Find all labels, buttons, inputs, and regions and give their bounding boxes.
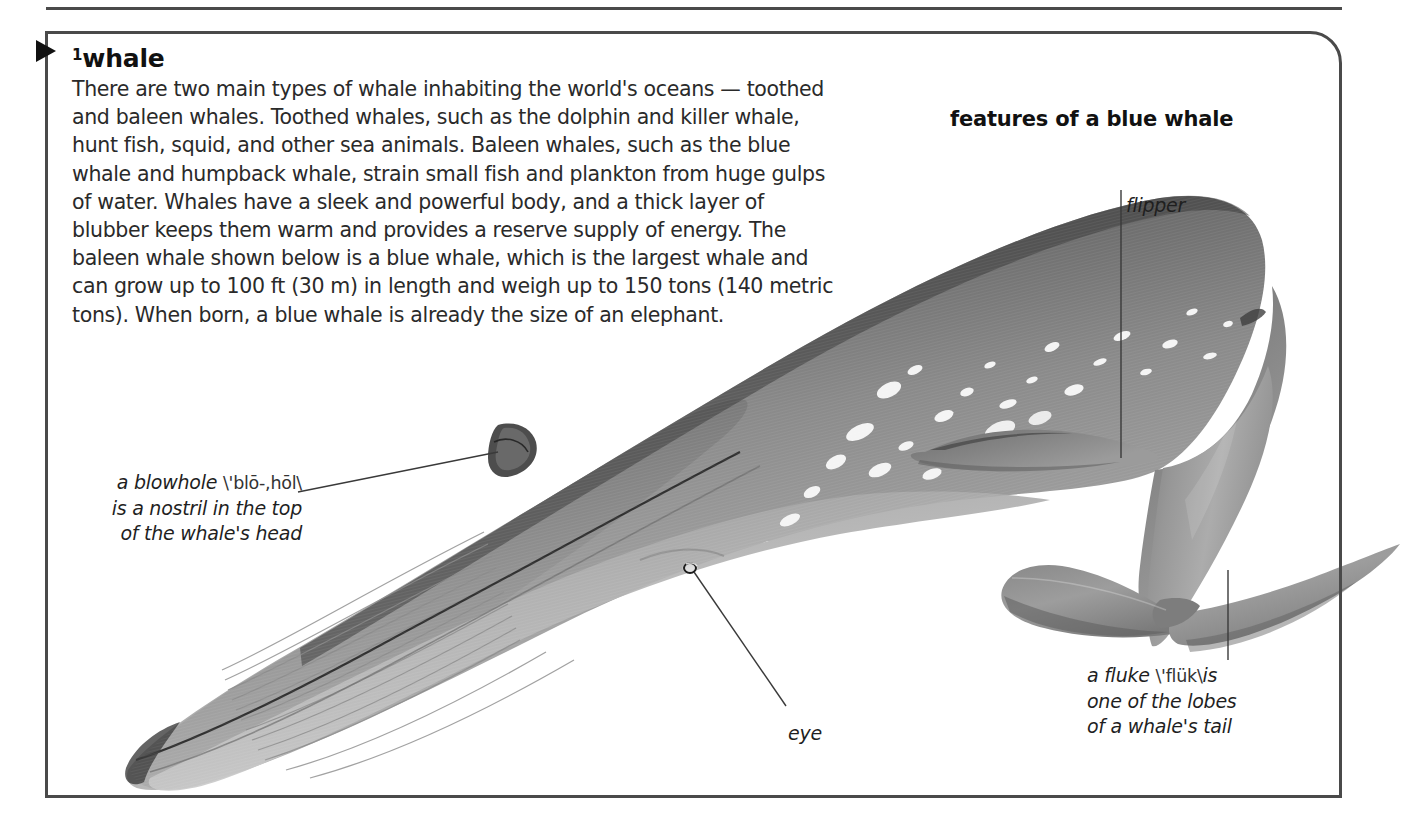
entry-arrow-marker — [36, 40, 56, 62]
callout-fluke: a fluke \'flük\is one of the lobes of a … — [1087, 663, 1247, 739]
entry-text-block: 1whale There are two main types of whale… — [72, 40, 842, 329]
callout-flipper: flipper — [1126, 168, 1185, 218]
headword-superscript: 1 — [72, 46, 82, 64]
callout-blowhole-pronunciation: \'blō-,hōl\ — [223, 473, 302, 493]
callout-blowhole-term: a blowhole — [117, 471, 217, 493]
page-root: 1whale There are two main types of whale… — [0, 0, 1407, 838]
page-title: 1whale — [72, 40, 842, 74]
callout-eye-label: eye — [788, 722, 822, 744]
blowhole-feature — [488, 424, 537, 478]
callout-blowhole: a blowhole \'blō-,hōl\ is a nostril in t… — [90, 470, 302, 546]
callout-fluke-pronunciation: \'flük\ — [1155, 666, 1202, 686]
callout-flipper-label: flipper — [1126, 194, 1185, 216]
callout-fluke-term: a fluke — [1087, 664, 1150, 686]
callout-eye: eye — [788, 696, 822, 746]
headword-text: whale — [82, 44, 164, 73]
definition-paragraph: There are two main types of whale inhabi… — [72, 75, 842, 329]
callout-blowhole-rest: is a nostril in the top of the whale's h… — [112, 497, 302, 544]
leader-line-blowhole — [298, 452, 498, 492]
figure-title: features of a blue whale — [950, 107, 1233, 131]
leader-line-eye — [694, 572, 786, 706]
